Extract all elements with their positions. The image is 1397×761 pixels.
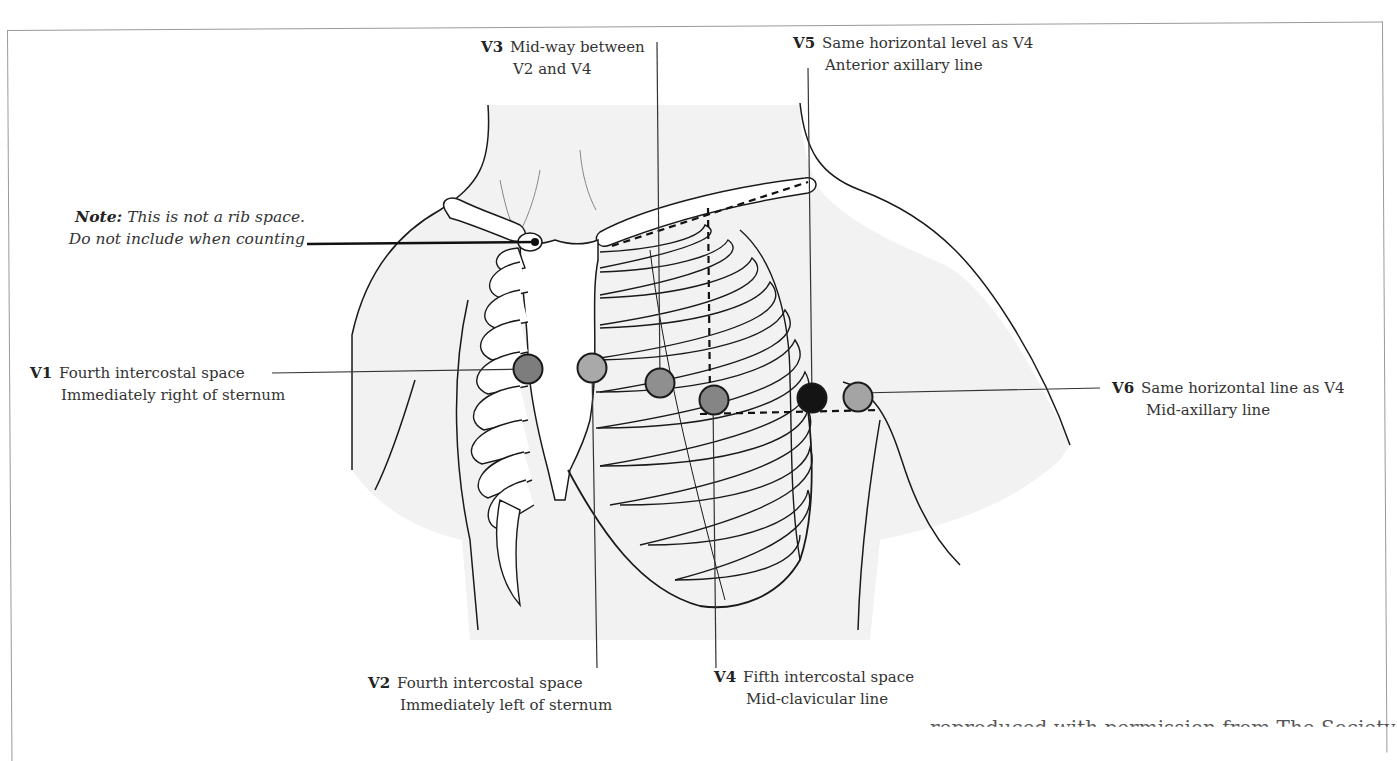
- lead-v5-line1: Same horizontal level as V4: [822, 34, 1033, 52]
- lead-v1-line2: Immediately right of sternum: [30, 384, 285, 406]
- lead-code-v1: V1: [30, 364, 52, 382]
- lead-code-v5: V5: [793, 34, 815, 52]
- lead-v1-line1: Fourth intercostal space: [59, 364, 245, 382]
- lead-v3-line2: V2 and V4: [481, 58, 645, 80]
- note-bold: Note:: [75, 207, 122, 226]
- lead-code-v6: V6: [1112, 379, 1134, 397]
- electrode-v4[interactable]: [700, 386, 729, 415]
- lead-v2-line2: Immediately left of sternum: [368, 694, 612, 716]
- lead-v5-line2: Anterior axillary line: [793, 54, 1033, 76]
- electrode-v3[interactable]: [646, 369, 675, 398]
- lead-label-v4: V4Fifth intercostal space Mid-clavicular…: [714, 666, 914, 710]
- lead-label-v1: V1Fourth intercostal space Immediately r…: [30, 362, 285, 406]
- electrode-v2[interactable]: [578, 354, 607, 383]
- note-label: Note: This is not a rib space. Do not in…: [40, 206, 305, 250]
- lead-code-v4: V4: [714, 668, 736, 686]
- lead-label-v5: V5Same horizontal level as V4 Anterior a…: [793, 32, 1033, 76]
- electrode-v1[interactable]: [514, 355, 543, 384]
- note-line2: Do not include when counting: [69, 230, 305, 248]
- torso-silhouette: [352, 103, 1070, 640]
- lead-v3-line1: Mid-way between: [510, 38, 645, 56]
- lead-v2-line1: Fourth intercostal space: [397, 674, 583, 692]
- lead-label-v6: V6Same horizontal line as V4 Mid-axillar…: [1112, 377, 1345, 421]
- lead-v4-line1: Fifth intercostal space: [743, 668, 914, 686]
- lead-v6-line1: Same horizontal line as V4: [1141, 379, 1345, 397]
- lead-code-v2: V2: [368, 674, 390, 692]
- lead-label-v3: V3Mid-way between V2 and V4: [481, 36, 645, 80]
- electrode-v5[interactable]: [798, 384, 827, 413]
- electrode-v6[interactable]: [844, 383, 873, 412]
- note-line1: This is not a rib space.: [127, 208, 305, 226]
- lead-v4-line2: Mid-clavicular line: [714, 688, 914, 710]
- lead-code-v3: V3: [481, 38, 503, 56]
- lead-label-v2: V2Fourth intercostal space Immediately l…: [368, 672, 612, 716]
- lead-v6-line2: Mid-axillary line: [1112, 399, 1345, 421]
